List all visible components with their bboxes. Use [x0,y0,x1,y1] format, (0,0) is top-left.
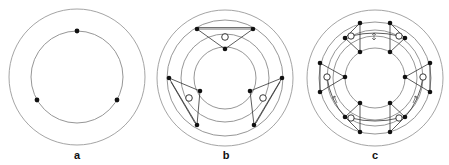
node [343,36,348,41]
node [388,130,393,135]
hollow-node [396,33,402,39]
hollow-node [186,95,193,102]
node [403,36,408,41]
hollow-node [348,115,354,121]
hollow-node [222,34,229,41]
link [171,82,195,123]
hollow-node [348,33,354,39]
node [195,123,200,128]
link [197,28,253,30]
panel-label-c: c [365,149,385,161]
node [388,101,393,106]
node [318,90,323,95]
node [252,123,257,128]
node [198,89,203,94]
node [358,101,363,106]
node [343,75,348,80]
node [403,75,408,80]
node [388,21,393,26]
ring-1 [157,10,293,146]
figure: a b c [0,0,449,165]
node [358,21,363,26]
node [403,115,408,120]
node-bottom-left [35,98,40,103]
link [351,118,399,121]
hollow-node [324,74,330,80]
panel-a [9,9,145,145]
node [358,50,363,55]
hollow-node [420,74,426,80]
node [388,50,393,55]
panel-c [307,10,443,146]
node-top [75,29,80,34]
node-bottom-right [115,98,120,103]
node [248,89,253,94]
node [195,27,200,32]
ring-3 [327,30,423,126]
node [167,76,172,81]
ring-5 [345,48,405,108]
hollow-node [260,95,267,102]
panel-b [157,10,293,146]
node [318,61,323,66]
node [251,27,256,32]
node [343,115,348,120]
node [428,61,433,66]
node [280,76,285,81]
panel-label-b: b [216,149,236,161]
hollow-node [396,115,402,121]
ring-4 [194,47,256,109]
inner-ring [31,31,123,123]
panel-label-a: a [67,149,87,161]
node [358,130,363,135]
diagram-canvas [0,0,449,165]
link [169,78,200,125]
node [223,47,228,52]
node [428,90,433,95]
